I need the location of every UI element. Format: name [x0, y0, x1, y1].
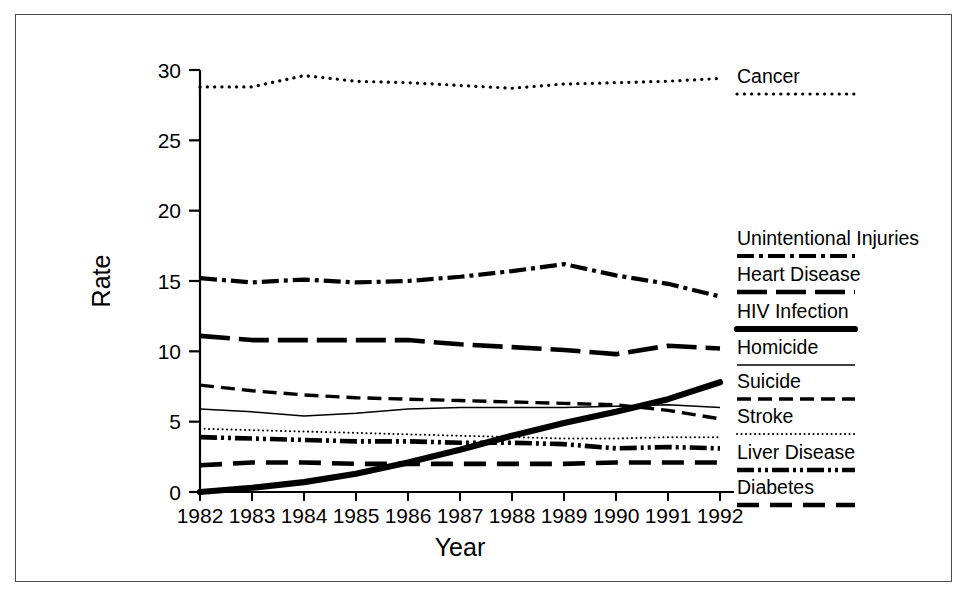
legend-item[interactable]: HIV Infection: [737, 300, 855, 329]
legend-item[interactable]: Liver Disease: [737, 441, 855, 470]
x-tick-label: 1990: [593, 504, 640, 527]
x-tick-label: 1991: [645, 504, 692, 527]
legend-label: Diabetes: [737, 476, 814, 498]
legend-label: Unintentional Injuries: [737, 227, 919, 249]
legend-label: Liver Disease: [737, 441, 855, 463]
x-tick-label: 1986: [385, 504, 432, 527]
y-tick-label: 30: [158, 59, 181, 82]
y-tick-label: 5: [169, 410, 181, 433]
legend-item[interactable]: Unintentional Injuries: [737, 227, 919, 256]
legend-item[interactable]: Diabetes: [737, 476, 855, 505]
y-tick-label: 25: [158, 129, 181, 152]
legend-label: HIV Infection: [737, 300, 849, 322]
legend-label: Stroke: [737, 405, 793, 427]
x-tick-label: 1984: [281, 504, 328, 527]
x-tick-label: 1987: [437, 504, 484, 527]
legend: CancerUnintentional InjuriesHeart Diseas…: [737, 65, 919, 505]
series-group: [200, 76, 720, 492]
legend-label: Homicide: [737, 336, 818, 358]
axes-group: 0510152025301982198319841985198619871988…: [87, 59, 743, 562]
series-line-cancer: [200, 76, 720, 89]
y-tick-label: 10: [158, 340, 181, 363]
y-tick-label: 15: [158, 270, 181, 293]
y-tick-label: 20: [158, 199, 181, 222]
x-axis-title: Year: [435, 533, 486, 561]
y-axis-title: Rate: [87, 255, 115, 308]
legend-item[interactable]: Heart Disease: [737, 263, 861, 292]
legend-label: Cancer: [737, 65, 800, 87]
line-chart: 0510152025301982198319841985198619871988…: [0, 0, 969, 598]
x-tick-label: 1983: [229, 504, 276, 527]
x-tick-label: 1982: [177, 504, 224, 527]
legend-item[interactable]: Stroke: [737, 405, 855, 434]
series-line-heart-disease: [200, 336, 720, 354]
legend-item[interactable]: Suicide: [737, 370, 855, 399]
series-line-unintentional-injuries: [200, 264, 720, 296]
legend-label: Suicide: [737, 370, 801, 392]
series-line-diabetes: [200, 462, 720, 465]
figure-canvas: 0510152025301982198319841985198619871988…: [0, 0, 969, 598]
x-tick-label: 1989: [541, 504, 588, 527]
legend-label: Heart Disease: [737, 263, 861, 285]
legend-item[interactable]: Cancer: [737, 65, 855, 94]
x-tick-label: 1985: [333, 504, 380, 527]
x-tick-label: 1988: [489, 504, 536, 527]
x-tick-label: 1992: [697, 504, 744, 527]
legend-item[interactable]: Homicide: [737, 336, 855, 365]
y-tick-label: 0: [169, 481, 181, 504]
